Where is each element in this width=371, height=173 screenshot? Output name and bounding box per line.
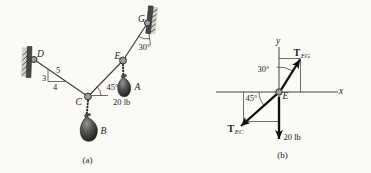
point-label-a: A bbox=[134, 82, 141, 92]
angle-label-c: 45° bbox=[107, 82, 119, 92]
ring-e bbox=[120, 57, 127, 64]
angle-arc-c bbox=[97, 87, 101, 96]
ring-g bbox=[145, 20, 151, 26]
point-label-e: E bbox=[114, 51, 121, 61]
angle-label-g: 30° bbox=[139, 42, 151, 52]
angle-arc-45 bbox=[259, 92, 265, 106]
angle-label-45: 45° bbox=[246, 93, 258, 103]
slope-run-label: 4 bbox=[53, 82, 58, 92]
tension-teg-symbol: T bbox=[294, 47, 301, 58]
x-axis-label: x bbox=[338, 86, 344, 96]
panel-a: 5 3 4 30° 45° D G E C A B 20 lb (a) bbox=[21, 6, 158, 165]
force-arrow-teg bbox=[281, 60, 300, 90]
point-label-d: D bbox=[36, 49, 44, 59]
tension-tec-subscript: EC bbox=[234, 128, 244, 136]
slope-hypotenuse-label: 5 bbox=[56, 65, 60, 75]
statics-figure-svg: 5 3 4 30° 45° D G E C A B 20 lb (a) bbox=[0, 0, 371, 173]
y-axis-label: y bbox=[275, 36, 281, 46]
load-label-a: 20 lb bbox=[113, 97, 130, 107]
panel-b: y x 30° 45° E T EG T EC 20 lb (b) bbox=[216, 36, 344, 160]
weight-b-hook-link bbox=[88, 113, 90, 115]
point-label-b: B bbox=[101, 126, 107, 136]
weight-a-hook-link bbox=[124, 75, 126, 77]
chain-c-to-b bbox=[87, 101, 88, 115]
load-label-fbd: 20 lb bbox=[284, 132, 301, 142]
tension-teg-subscript: EG bbox=[300, 52, 310, 60]
node-label-e: E bbox=[282, 91, 289, 101]
wall-d-face bbox=[26, 46, 32, 77]
ring-e-fbd bbox=[276, 89, 282, 95]
ring-c bbox=[85, 93, 92, 100]
slope-rise-label: 3 bbox=[42, 73, 46, 83]
point-label-g: G bbox=[138, 14, 145, 24]
tension-tec-symbol: T bbox=[228, 123, 235, 134]
wall-anchor-d bbox=[21, 46, 32, 77]
caption-panel-b: (b) bbox=[277, 150, 288, 160]
caption-panel-a: (a) bbox=[83, 155, 93, 165]
angle-arc-g bbox=[138, 36, 150, 39]
figure-canvas: 5 3 4 30° 45° D G E C A B 20 lb (a) bbox=[0, 0, 371, 173]
weight-a bbox=[118, 77, 131, 97]
weight-b bbox=[80, 117, 97, 142]
angle-label-30: 30° bbox=[258, 64, 270, 74]
point-label-c: C bbox=[76, 97, 83, 107]
